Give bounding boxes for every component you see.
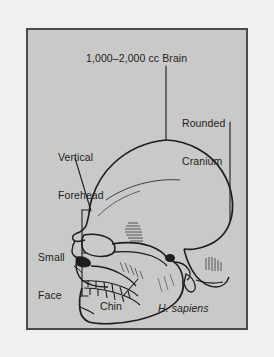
maxilla-body bbox=[91, 266, 136, 286]
upper-tooth-divider bbox=[104, 282, 105, 290]
label-small-face-line2: Face bbox=[38, 289, 65, 302]
temporal-line bbox=[106, 180, 180, 200]
upper-tooth-divider bbox=[112, 284, 113, 292]
label-rounded-cranium-line2: Cranium bbox=[182, 155, 225, 168]
occipital-hatching bbox=[206, 257, 221, 271]
anterior-nasal-spine bbox=[74, 266, 82, 273]
label-vertical-forehead-line1: Vertical bbox=[58, 151, 104, 164]
label-brain: 1,000–2,000 cc Brain bbox=[86, 52, 187, 65]
mental-protuberance bbox=[80, 307, 94, 314]
mastoid-process bbox=[184, 274, 195, 292]
label-vertical-forehead: Vertical Forehead bbox=[58, 126, 104, 226]
upper-tooth-divider bbox=[120, 287, 122, 294]
label-vertical-forehead-line2: Forehead bbox=[58, 189, 104, 202]
figure-root: 1,000–2,000 cc Brain Rounded Cranium Ver… bbox=[0, 0, 274, 357]
figure-plate: 1,000–2,000 cc Brain Rounded Cranium Ver… bbox=[28, 30, 246, 328]
zygomatic-arch-lower bbox=[114, 252, 167, 266]
label-small-face: Small Face bbox=[38, 226, 65, 326]
lower-tooth-divider bbox=[106, 291, 107, 298]
nasal-bridge bbox=[72, 241, 76, 257]
coronal-suture bbox=[98, 191, 140, 216]
label-rounded-cranium: Rounded Cranium bbox=[182, 92, 225, 192]
zygomatic-arch bbox=[112, 243, 167, 258]
mandibular-condyle bbox=[165, 254, 175, 262]
figure-frame: 1,000–2,000 cc Brain Rounded Cranium Ver… bbox=[26, 28, 248, 330]
temporal-fossa-hatching bbox=[125, 223, 143, 241]
label-species-caption: H. sapiens bbox=[158, 302, 209, 315]
lower-tooth-divider bbox=[122, 296, 124, 302]
lower-tooth-divider bbox=[114, 293, 115, 300]
orbit-eye-socket bbox=[82, 234, 115, 256]
ramus-shading bbox=[158, 274, 174, 292]
label-small-face-line1: Small bbox=[38, 251, 65, 264]
facial-shading bbox=[120, 262, 143, 279]
occipital-base bbox=[184, 249, 229, 287]
label-chin: Chin bbox=[100, 300, 122, 313]
label-rounded-cranium-line1: Rounded bbox=[182, 117, 225, 130]
nasal-aperture bbox=[76, 257, 91, 267]
